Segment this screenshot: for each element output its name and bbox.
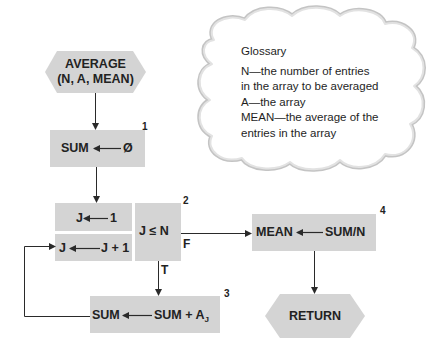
- glossary-line: MEAN—the average of the: [241, 110, 378, 126]
- step3-value: SUM + AJ: [154, 308, 209, 324]
- step4-number: 4: [380, 205, 386, 216]
- step3-value-subscript: J: [205, 315, 209, 324]
- glossary-line: entries in the array: [241, 126, 378, 142]
- decision-condition: J ≤ N: [139, 224, 169, 238]
- glossary-line: A—the array: [241, 95, 378, 111]
- start-label: AVERAGE (N, A, MEAN): [45, 57, 146, 87]
- true-label: T: [161, 263, 168, 277]
- glossary-title: Glossary: [241, 44, 378, 60]
- init-box: [55, 203, 132, 231]
- step4-value: SUM/N: [325, 225, 365, 239]
- step4-target: MEAN: [256, 225, 293, 239]
- start-label-line2: (N, A, MEAN): [45, 72, 146, 87]
- glossary-line: in the array to be averaged: [241, 79, 378, 95]
- return-label: RETURN: [265, 309, 365, 323]
- start-label-line1: AVERAGE: [45, 57, 146, 72]
- increment-value: J + 1: [101, 241, 129, 255]
- glossary: Glossary N—the number of entries in the …: [241, 44, 378, 141]
- step1-value: Ø: [123, 141, 133, 155]
- init-target: J: [76, 211, 83, 225]
- step3-target: SUM: [92, 308, 120, 322]
- step3-value-main: SUM + A: [154, 308, 205, 322]
- step1-number: 1: [142, 121, 148, 132]
- increment-target: J: [59, 241, 66, 255]
- step3-number: 3: [224, 288, 230, 299]
- step2-number: 2: [183, 195, 189, 206]
- false-label: F: [183, 237, 190, 251]
- init-value: 1: [110, 211, 117, 225]
- step1-target: SUM: [61, 141, 89, 155]
- glossary-line: N—the number of entries: [241, 64, 378, 80]
